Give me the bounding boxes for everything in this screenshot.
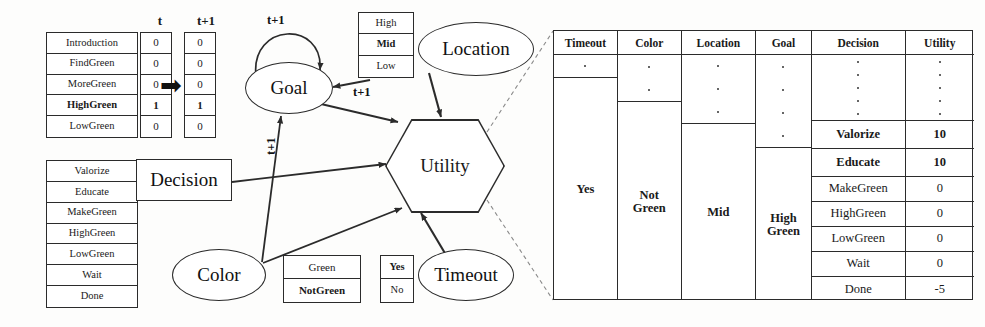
utility-table-decision-row-6: Done <box>812 277 905 302</box>
location-value-1[interactable]: Mid <box>359 34 413 55</box>
utility-table-column-timeout: TimeoutYes <box>554 31 618 299</box>
utility-table-ellipsis-location <box>682 55 755 124</box>
ellipsis-dot <box>717 88 719 90</box>
ellipsis-dot <box>939 100 941 102</box>
utility-table-utility-row-6: -5 <box>906 277 974 302</box>
goal-state-label-4[interactable]: LowGreen <box>47 116 137 137</box>
utility-table-header-location: Location <box>682 31 755 55</box>
goal-state-label-3[interactable]: HighGreen <box>47 95 137 116</box>
ellipsis-dot <box>782 66 784 68</box>
utility-table-value-goal: High Green <box>756 148 811 302</box>
ellipsis-dot <box>857 113 859 115</box>
timeout-value-1[interactable]: No <box>381 279 413 302</box>
goal-state-t1-value-4[interactable]: 0 <box>185 116 215 137</box>
timeout-value-0[interactable]: Yes <box>381 256 413 279</box>
utility-table-column-goal: GoalHigh Green <box>756 31 812 299</box>
utility-table-header-utility: Utility <box>906 31 974 55</box>
node-utility[interactable]: Utility <box>385 119 505 213</box>
ellipsis-dot <box>717 111 719 113</box>
utility-table-ellipsis-color <box>618 55 681 102</box>
utility-table-utility-row-1: 10 <box>906 149 974 177</box>
node-decision[interactable]: Decision <box>136 159 232 201</box>
goal-state-label-1[interactable]: FindGreen <box>47 54 137 75</box>
edge-goal-to-utility <box>321 104 398 122</box>
utility-table-value-color: Not Green <box>618 102 681 302</box>
utility-table-header-decision: Decision <box>812 31 905 55</box>
decision-option-5[interactable]: Wait <box>47 265 137 286</box>
color-value-0[interactable]: Green <box>284 256 360 279</box>
edge-label-location-goal: t+1 <box>353 86 371 99</box>
transition-arrow-icon: ➡ <box>152 70 190 100</box>
node-timeout[interactable]: Timeout <box>418 249 514 301</box>
ellipsis-dot <box>782 89 784 91</box>
goal-state-label-column: IntroductionFindGreenMoreGreenHighGreenL… <box>46 32 138 138</box>
ellipsis-dot <box>717 65 719 67</box>
utility-table-ellipsis-decision <box>812 55 905 121</box>
decision-option-3[interactable]: HighGreen <box>47 224 137 245</box>
goal-state-t-value-0[interactable]: 0 <box>141 33 171 54</box>
utility-table-utility-row-4: 0 <box>906 227 974 252</box>
utility-table-ellipsis-timeout <box>554 55 617 78</box>
utility-table-header-timeout: Timeout <box>554 31 617 55</box>
ellipsis-dot <box>648 66 650 68</box>
goal-state-t-value-4[interactable]: 0 <box>141 116 171 137</box>
ellipsis-dot <box>584 65 586 67</box>
timeout-values-list: YesNo <box>380 255 414 303</box>
utility-table-ellipsis-utility <box>906 55 974 121</box>
influence-diagram-figure: t t+1 IntroductionFindGreenMoreGreenHigh… <box>0 0 985 327</box>
utility-table-utility-row-2: 0 <box>906 177 974 202</box>
edge-label-goal-self: t+1 <box>267 14 285 27</box>
utility-table-column-location: LocationMid <box>682 31 756 299</box>
decision-option-6[interactable]: Done <box>47 286 137 307</box>
node-color[interactable]: Color <box>172 249 266 301</box>
ellipsis-dot <box>857 87 859 89</box>
utility-table-decision-row-0: Valorize <box>812 121 905 149</box>
utility-table: TimeoutYesColorNot GreenLocationMidGoalH… <box>553 30 973 300</box>
decision-option-1[interactable]: Educate <box>47 182 137 203</box>
goal-state-header-t: t <box>140 14 180 27</box>
utility-table-column-utility: Utility10100000-5 <box>906 31 974 299</box>
utility-table-utility-row-0: 10 <box>906 121 974 149</box>
ellipsis-dot <box>939 61 941 63</box>
location-value-0[interactable]: High <box>359 13 413 34</box>
location-values-list: HighMidLow <box>358 12 414 78</box>
goal-state-t1-value-0[interactable]: 0 <box>185 33 215 54</box>
utility-table-decision-row-4: LowGreen <box>812 227 905 252</box>
ellipsis-dot <box>857 74 859 76</box>
utility-table-decision-row-3: HighGreen <box>812 202 905 227</box>
utility-table-utility-row-5: 0 <box>906 252 974 277</box>
node-goal[interactable]: Goal <box>245 62 333 114</box>
ellipsis-dot <box>782 135 784 137</box>
utility-table-column-decision: DecisionValorizeEducateMakeGreenHighGree… <box>812 31 906 299</box>
decision-option-0[interactable]: Valorize <box>47 161 137 182</box>
utility-table-value-timeout: Yes <box>554 78 617 302</box>
edge-decision-to-utility <box>232 164 386 182</box>
utility-table-decision-row-1: Educate <box>812 149 905 177</box>
utility-table-column-color: ColorNot Green <box>618 31 682 299</box>
goal-state-header-t1: t+1 <box>183 14 229 27</box>
utility-table-header-color: Color <box>618 31 681 55</box>
node-location[interactable]: Location <box>418 22 534 76</box>
utility-table-decision-row-5: Wait <box>812 252 905 277</box>
ellipsis-dot <box>782 112 784 114</box>
utility-table-utility-row-3: 0 <box>906 202 974 227</box>
ellipsis-dot <box>939 74 941 76</box>
node-utility-label: Utility <box>387 121 504 212</box>
color-value-1[interactable]: NotGreen <box>284 279 360 302</box>
utility-table-ellipsis-goal <box>756 55 811 148</box>
goal-state-label-0[interactable]: Introduction <box>47 33 137 54</box>
decision-option-2[interactable]: MakeGreen <box>47 203 137 224</box>
ellipsis-dot <box>648 89 650 91</box>
goal-state-label-2[interactable]: MoreGreen <box>47 75 137 96</box>
location-value-2[interactable]: Low <box>359 56 413 77</box>
utility-table-header-goal: Goal <box>756 31 811 55</box>
utility-table-value-location: Mid <box>682 124 755 302</box>
ellipsis-dot <box>939 87 941 89</box>
ellipsis-dot <box>857 100 859 102</box>
color-values-list: GreenNotGreen <box>283 255 361 303</box>
ellipsis-dot <box>857 61 859 63</box>
ellipsis-dot <box>939 113 941 115</box>
edge-label-color-goal: t+1 <box>265 137 278 155</box>
utility-table-decision-row-2: MakeGreen <box>812 177 905 202</box>
decision-option-4[interactable]: LowGreen <box>47 244 137 265</box>
